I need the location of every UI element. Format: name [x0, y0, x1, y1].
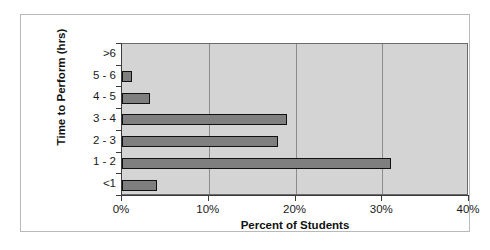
x-axis-tick-label: 10% [178, 203, 238, 215]
y-axis-tick-label: 5 - 6 [70, 70, 116, 82]
y-axis-tick [116, 43, 121, 44]
y-axis-tick-labels: >65 - 64 - 53 - 42 - 31 - 2<1 [66, 43, 116, 195]
y-axis-line [121, 43, 122, 196]
bar [122, 136, 278, 147]
y-axis-tick [116, 130, 121, 131]
y-axis-tick [116, 65, 121, 66]
y-axis-tick [116, 108, 121, 109]
x-axis-tick [381, 196, 382, 201]
y-axis-tick [116, 86, 121, 87]
plot-area [121, 43, 468, 195]
bar-row [122, 109, 468, 131]
bars-layer [122, 44, 467, 194]
y-axis-tick-label: 3 - 4 [70, 113, 116, 125]
bar [122, 93, 150, 104]
x-axis-title: Percent of Students [121, 219, 469, 231]
x-axis-tick-label: 20% [265, 203, 325, 215]
bar [122, 114, 287, 125]
y-axis-tick-label: 2 - 3 [70, 135, 116, 147]
bar-row [122, 66, 468, 88]
bar [122, 158, 391, 169]
y-axis-tick-label: >6 [70, 48, 116, 60]
bar-row [122, 153, 468, 175]
x-axis-tick [468, 196, 469, 201]
y-axis-title: Time to Perform (hrs) [55, 7, 67, 167]
x-axis-tick [295, 196, 296, 201]
y-axis-tick-label: 1 - 2 [70, 156, 116, 168]
x-axis-tick-label: 0% [91, 203, 151, 215]
y-axis-tick-label: 4 - 5 [70, 91, 116, 103]
chart-frame: >65 - 64 - 53 - 42 - 31 - 2<1 0%10%20%30… [20, 14, 470, 232]
bar [122, 71, 132, 82]
bar [122, 180, 157, 191]
x-axis-tick-label: 30% [351, 203, 411, 215]
bar-row [122, 87, 468, 109]
y-axis-tick [116, 173, 121, 174]
x-axis-tick-label: 40% [438, 203, 490, 215]
y-axis-tick [116, 152, 121, 153]
bar-row [122, 131, 468, 153]
bar-row [122, 174, 468, 195]
y-axis-tick-label: <1 [70, 178, 116, 190]
x-axis-tick [208, 196, 209, 201]
x-axis-tick [121, 196, 122, 201]
bar-row [122, 44, 468, 66]
